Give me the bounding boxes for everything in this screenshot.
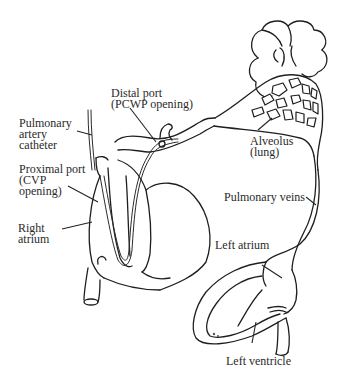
leader-right-atrium [62,222,92,229]
pulmonary-artery-catheter-diagram: Distal port (PCWP opening) Pulmonary art… [0,0,346,382]
pulmonary-artery [115,118,215,152]
leader-left-atrium [262,265,282,278]
leader-catheter [77,131,92,135]
right-heart [84,157,210,305]
label-proximal-port: Proximal port (CVP opening) [19,164,85,197]
leader-alveolus [258,118,272,130]
label-pulmonary-artery-catheter: Pulmonary artery catheter [19,118,72,151]
label-distal-port: Distal port (PCWP opening) [111,88,193,110]
leader-left-ventricle [252,322,256,343]
pulmonary-vein [266,156,319,270]
label-right-atrium: Right atrium [18,223,49,245]
left-heart [193,262,297,355]
label-left-ventricle: Left ventricle [226,356,291,367]
label-left-atrium: Left atrium [215,240,269,251]
catheter [88,110,178,265]
label-alveolus: Alveolus (lung) [250,136,293,158]
label-pulmonary-veins: Pulmonary veins [224,192,305,203]
